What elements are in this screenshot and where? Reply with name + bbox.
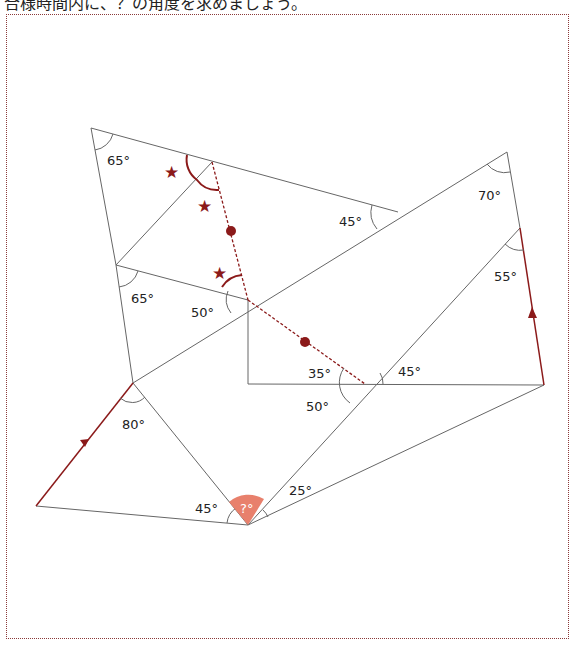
star-icon: ★ — [197, 196, 212, 216]
angle-label-45-upper: 45° — [339, 214, 362, 229]
angle-label-70: 70° — [478, 188, 501, 203]
figure-lines — [36, 128, 544, 525]
arrow-up-icon — [528, 307, 537, 318]
star-icon: ★ — [164, 162, 179, 182]
dashed-segments — [212, 162, 365, 384]
angle-label-80: 80° — [122, 417, 145, 432]
unknown-angle-label: ?° — [240, 501, 253, 516]
equal-mark-dot — [226, 226, 236, 236]
arrow-down-icon — [80, 439, 89, 447]
star-icon: ★ — [212, 263, 227, 283]
angle-label-55: 55° — [494, 269, 517, 284]
angle-arcs — [95, 134, 524, 523]
angle-label-65-top: 65° — [107, 153, 130, 168]
geometry-diagram: ★ ★ ★ 65° 65° 50° 45° 70° 55° 35° 45° 50… — [0, 0, 579, 648]
equal-mark-dot — [300, 337, 310, 347]
angle-label-45-bottom: 45° — [195, 501, 218, 516]
angle-label-45-right: 45° — [398, 364, 421, 379]
angle-label-50-mid: 50° — [191, 305, 214, 320]
equal-length-segments — [36, 228, 544, 506]
angle-label-50-low: 50° — [306, 399, 329, 414]
angle-label-65-mid: 65° — [131, 291, 154, 306]
angle-label-25: 25° — [289, 483, 312, 498]
angle-label-35: 35° — [308, 366, 331, 381]
